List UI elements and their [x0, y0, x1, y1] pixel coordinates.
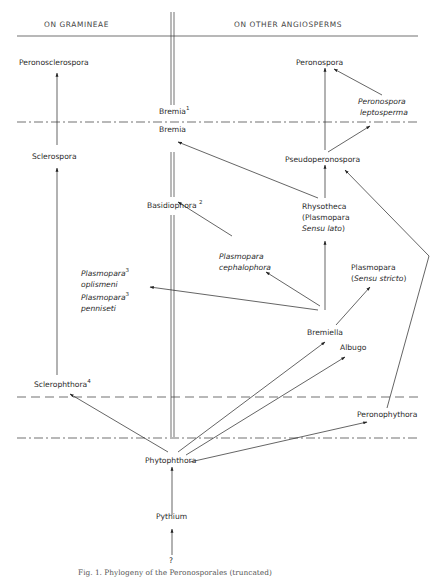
arrow-bremiella-plasmopara-ss	[336, 287, 370, 325]
taxon-rhysotheca-sensu: Sensu lato	[302, 224, 342, 233]
header-on-other-angiosperms: ON OTHER ANGIOSPERMS	[234, 20, 342, 29]
taxon-bremia-upper: Bremia1	[159, 107, 190, 117]
taxon-peronospora-leptosperma-species: leptosperma	[358, 108, 408, 117]
taxon-sclerophthora-name: Sclerophthora	[34, 380, 87, 389]
taxon-peronospora-leptosperma: Peronosporaleptosperma	[358, 96, 408, 118]
line-bremiella-cephalophora	[266, 272, 320, 306]
taxon-plasmopara-penniseti-species: penniseti	[81, 304, 116, 313]
taxon-plasmopara-cephalophora-species: cephalophora	[219, 263, 271, 272]
taxon-bremia-upper-name: Bremia	[159, 107, 186, 116]
taxon-plasmopara-oplismeni-genus: Plasmopara	[81, 269, 126, 278]
taxon-plasmopara-oplismeni-species: oplismeni	[81, 280, 118, 289]
taxon-rhysotheca-name: Rhysotheca	[302, 202, 346, 211]
taxon-bremia-lower: Bremia	[159, 125, 186, 135]
taxon-sclerophthora: Sclerophthora4	[34, 380, 91, 390]
taxon-plasmopara-ss-name: Plasmopara	[351, 263, 396, 272]
arrow-pseudoperonospora-leptosperma	[328, 126, 370, 152]
arrow-phytophthora-albugo	[186, 357, 345, 455]
taxon-rhysotheca-synonym: (Plasmopara	[302, 213, 350, 222]
taxon-plasmopara-sensu-stricto: Plasmopara(Sensu stricto)	[351, 262, 406, 284]
figure-caption: Fig. 1. Phylogeny of the Peronosporales …	[78, 568, 272, 577]
taxon-rhysotheca: Rhysotheca(PlasmoparaSensu lato)	[302, 201, 350, 234]
taxon-peronophythora: Peronophythora	[357, 410, 417, 420]
taxon-rhysotheca-close: )	[342, 224, 345, 233]
footnote-2: 2	[199, 199, 203, 205]
taxon-plasmopara-penniseti-genus: Plasmopara	[81, 293, 126, 302]
arrow-rhysotheca-bremia	[178, 142, 318, 198]
taxon-phytophthora: Phytophthora	[145, 456, 196, 466]
arrow-bremiella-oplismeni	[150, 287, 318, 310]
taxon-peronospora: Peronospora	[296, 58, 343, 68]
taxon-pseudoperonospora: Pseudoperonospora	[285, 155, 360, 165]
taxon-plasmopara-cephalophora-genus: Plasmopara	[219, 252, 264, 261]
taxon-plasmopara-ss-sensu: Sensu stricto	[354, 274, 403, 283]
taxon-pythium: Pythium	[156, 512, 187, 522]
footnote-3a: 3	[126, 267, 130, 273]
taxon-plasmopara-penniseti: Plasmopara3penniseti	[81, 292, 129, 314]
taxon-peronospora-leptosperma-genus: Peronospora	[358, 97, 406, 106]
footnote-4: 4	[87, 378, 91, 384]
footnote-1: 1	[186, 105, 190, 111]
taxon-albugo: Albugo	[340, 343, 366, 353]
column-divider	[171, 12, 174, 437]
origin-unknown: ?	[169, 556, 173, 566]
taxon-sclerospora: Sclerospora	[32, 152, 77, 162]
arrow-phytophthora-sclerophthora	[70, 394, 168, 452]
taxon-plasmopara-oplismeni: Plasmopara3oplismeni	[81, 268, 129, 290]
footnote-3b: 3	[126, 291, 130, 297]
taxon-peronosclerospora: Peronosclerospora	[19, 58, 89, 68]
arrow-peronophythora-pseudoperonospora	[345, 170, 429, 408]
taxon-basidiophora-name: Basidiophora	[147, 201, 197, 210]
arrow-phytophthora-peronophythora	[190, 422, 367, 462]
taxon-plasmopara-ss-close: )	[403, 274, 406, 283]
header-on-gramineae: ON GRAMINEAE	[44, 20, 109, 29]
taxon-bremiella: Bremiella	[307, 328, 343, 338]
taxon-basidiophora: Basidiophora 2	[147, 201, 202, 211]
arrow-leptosperma-peronospora	[334, 69, 382, 95]
taxon-plasmopara-cephalophora: Plasmoparacephalophora	[219, 251, 271, 273]
